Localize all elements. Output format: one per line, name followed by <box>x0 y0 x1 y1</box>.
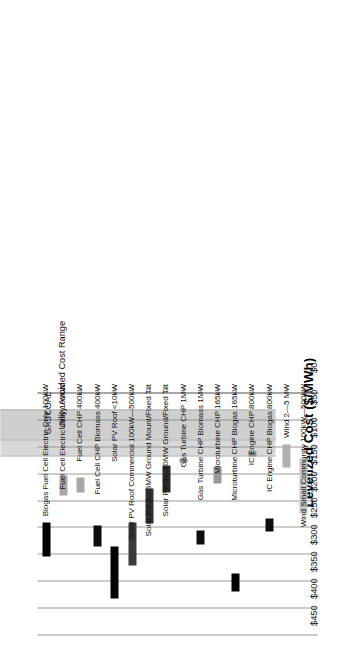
category-tick <box>200 387 201 393</box>
range-bar[interactable] <box>162 465 170 492</box>
category-tick <box>63 387 64 393</box>
category-tick <box>303 387 304 393</box>
y-axis-tick-100 <box>312 446 317 447</box>
category-tick <box>286 387 287 393</box>
range-bar[interactable] <box>76 477 84 493</box>
y-axis-tick-450 <box>312 634 317 635</box>
range-bar[interactable] <box>93 525 101 546</box>
category-tick <box>166 387 167 393</box>
y-axis-tick-300 <box>312 553 317 554</box>
gridline-150 <box>37 473 312 474</box>
category-tick <box>80 387 81 393</box>
gridline-450 <box>37 634 312 635</box>
category-tick <box>114 387 115 393</box>
category-tick <box>252 387 253 393</box>
y-axis-tick-250 <box>312 526 317 527</box>
gridline-50 <box>37 419 312 420</box>
gridline-100 <box>37 446 312 447</box>
category-tick <box>217 387 218 393</box>
range-bar[interactable] <box>179 458 187 462</box>
y-axis-tick-400 <box>312 607 317 608</box>
category-tick <box>132 387 133 393</box>
gridline-0 <box>37 392 312 393</box>
range-bar[interactable] <box>282 444 290 467</box>
category-tick <box>235 387 236 393</box>
gridline-350 <box>37 580 312 581</box>
gridline-300 <box>37 553 312 554</box>
range-bar[interactable] <box>59 475 67 495</box>
range-bar[interactable] <box>248 451 256 456</box>
range-bar[interactable] <box>231 573 239 591</box>
y-axis-tick-50 <box>312 419 317 420</box>
avoided-cost-band-coal <box>0 409 275 440</box>
category-tick <box>46 387 47 393</box>
range-bar[interactable] <box>145 488 153 523</box>
y-axis-tick-200 <box>312 500 317 501</box>
range-bar[interactable] <box>196 530 204 544</box>
category-tick <box>97 387 98 393</box>
category-tick <box>269 387 270 393</box>
gridline-400 <box>37 607 312 608</box>
y-axis-tick-350 <box>312 580 317 581</box>
y-axis-tick-0 <box>312 392 317 393</box>
category-tick <box>183 387 184 393</box>
range-bar[interactable] <box>128 522 136 565</box>
gridline-200 <box>37 500 312 501</box>
range-bar[interactable] <box>110 546 118 598</box>
range-bar[interactable] <box>213 466 221 483</box>
range-bar[interactable] <box>42 522 50 556</box>
range-bar[interactable] <box>299 458 307 514</box>
chart-figure: Levelized Cost ($/MWh) $0$50$100$150$200… <box>0 0 348 667</box>
range-bar[interactable] <box>265 518 273 530</box>
category-tick <box>149 387 150 393</box>
chart-stage: Levelized Cost ($/MWh) <box>0 0 348 667</box>
y-axis-tick-150 <box>312 473 317 474</box>
